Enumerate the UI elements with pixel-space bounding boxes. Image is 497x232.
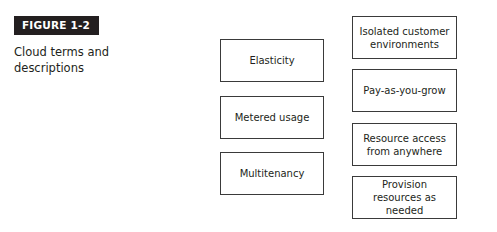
term-box-elasticity: Elasticity (220, 39, 324, 82)
description-label: Pay-as-you-grow (363, 84, 445, 97)
term-box-multitenancy: Multitenancy (220, 152, 324, 195)
description-box-resource-access: Resource access from anywhere (352, 123, 457, 166)
description-label: Provision resources as needed (357, 178, 452, 217)
term-label: Multitenancy (240, 167, 305, 180)
term-box-metered-usage: Metered usage (220, 96, 324, 139)
figure-caption: Cloud terms and descriptions (14, 44, 164, 76)
description-box-provision-resources: Provision resources as needed (352, 176, 457, 219)
description-label: Isolated customer environments (357, 25, 452, 51)
figure-label: FIGURE 1-2 (14, 16, 99, 35)
term-label: Metered usage (235, 111, 310, 124)
description-box-isolated-environments: Isolated customer environments (352, 16, 457, 59)
description-box-pay-as-you-grow: Pay-as-you-grow (352, 69, 457, 112)
term-label: Elasticity (249, 54, 294, 67)
description-label: Resource access from anywhere (357, 132, 452, 158)
